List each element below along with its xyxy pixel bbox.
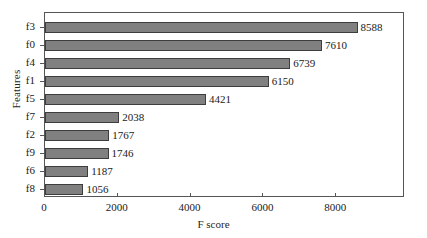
bar-value-label-f9: 1746 <box>112 146 134 160</box>
bar-value-label-f8: 1056 <box>86 182 108 196</box>
f-score-bar-chart: Features 8588761067396150442120381767174… <box>0 0 427 238</box>
y-tick-mark <box>40 27 44 28</box>
y-tick-mark <box>40 171 44 172</box>
x-tick-label-2000: 2000 <box>92 200 142 214</box>
bar-row: 4421 <box>45 94 405 105</box>
bar-value-label-f7: 2038 <box>122 110 144 124</box>
bar-value-label-f2: 1767 <box>112 128 134 142</box>
x-tick-mark <box>190 193 191 197</box>
bar-f4 <box>45 58 290 69</box>
y-tick-mark <box>40 189 44 190</box>
y-tick-mark <box>40 153 44 154</box>
bar-f1 <box>45 76 269 87</box>
x-tick-label-0: 0 <box>19 200 69 214</box>
bar-value-label-f5: 4421 <box>209 92 231 106</box>
y-tick-label-f2: f2 <box>11 128 35 141</box>
bar-value-label-f0: 7610 <box>325 38 347 52</box>
bar-row: 6739 <box>45 58 405 69</box>
bar-row: 1056 <box>45 184 405 195</box>
bar-row: 1187 <box>45 166 405 177</box>
bar-f2 <box>45 130 109 141</box>
bar-value-label-f4: 6739 <box>293 56 315 70</box>
y-tick-label-f0: f0 <box>11 38 35 51</box>
x-tick-label-8000: 8000 <box>310 200 360 214</box>
y-tick-mark <box>40 117 44 118</box>
bar-value-label-f1: 6150 <box>272 74 294 88</box>
bar-f3 <box>45 22 358 33</box>
plot-area: 8588761067396150442120381767174611871056 <box>44 12 404 197</box>
bar-value-label-f6: 1187 <box>91 164 113 178</box>
y-tick-label-f6: f6 <box>11 164 35 177</box>
bar-row: 1746 <box>45 148 405 159</box>
y-tick-mark <box>40 135 44 136</box>
bar-f9 <box>45 148 109 159</box>
bar-f5 <box>45 94 206 105</box>
x-tick-mark <box>117 193 118 197</box>
bar-row: 1767 <box>45 130 405 141</box>
y-tick-label-f8: f8 <box>11 182 35 195</box>
bar-value-label-f3: 8588 <box>361 20 383 34</box>
bar-f7 <box>45 112 119 123</box>
y-tick-mark <box>40 81 44 82</box>
y-tick-mark <box>40 99 44 100</box>
y-tick-mark <box>40 45 44 46</box>
bar-f0 <box>45 40 322 51</box>
bar-row: 7610 <box>45 40 405 51</box>
x-tick-mark <box>44 193 45 197</box>
bar-row: 2038 <box>45 112 405 123</box>
x-tick-mark <box>335 193 336 197</box>
y-tick-label-f3: f3 <box>11 20 35 33</box>
y-tick-mark <box>40 63 44 64</box>
y-tick-label-f7: f7 <box>11 110 35 123</box>
bar-f6 <box>45 166 88 177</box>
bar-row: 6150 <box>45 76 405 87</box>
x-tick-mark <box>262 193 263 197</box>
y-tick-label-f9: f9 <box>11 146 35 159</box>
y-tick-label-f1: f1 <box>11 74 35 87</box>
x-axis-title: F score <box>0 217 427 231</box>
x-tick-label-4000: 4000 <box>165 200 215 214</box>
y-tick-label-f5: f5 <box>11 92 35 105</box>
bar-row: 8588 <box>45 22 405 33</box>
y-tick-label-f4: f4 <box>11 56 35 69</box>
bar-f8 <box>45 184 83 195</box>
x-tick-label-6000: 6000 <box>237 200 287 214</box>
